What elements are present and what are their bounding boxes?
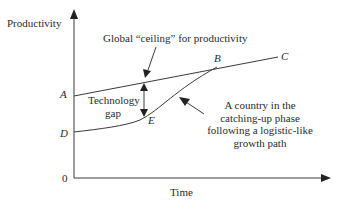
ceiling-pointer-arrow-icon [143,69,151,78]
global-ceiling-line [74,57,278,96]
y-axis-label: Productivity [7,17,61,30]
ceiling-pointer-line [148,47,156,70]
catchup-pointer-arrow-icon [179,97,190,106]
point-b-label: B [214,52,221,65]
origin-label: 0 [62,172,68,185]
ceiling-annotation: Global “ceiling” for productivity [103,32,247,45]
gap-arrow-up-icon [140,83,148,91]
gap-label-line1: Technology [88,94,138,107]
point-c-label: C [281,50,288,63]
x-axis-label: Time [170,186,193,199]
x-axis-arrow-icon [321,174,331,182]
gap-label-line2: gap [88,107,138,120]
point-e-label: E [148,114,155,127]
point-d-label: D [60,127,68,140]
technology-gap-annotation: Technology gap [88,94,138,120]
point-a-label: A [60,88,67,101]
catchup-pointer-line [186,102,204,114]
catchup-annotation: A country in the catching-up phase follo… [205,99,315,149]
y-axis-arrow-icon [70,9,78,19]
